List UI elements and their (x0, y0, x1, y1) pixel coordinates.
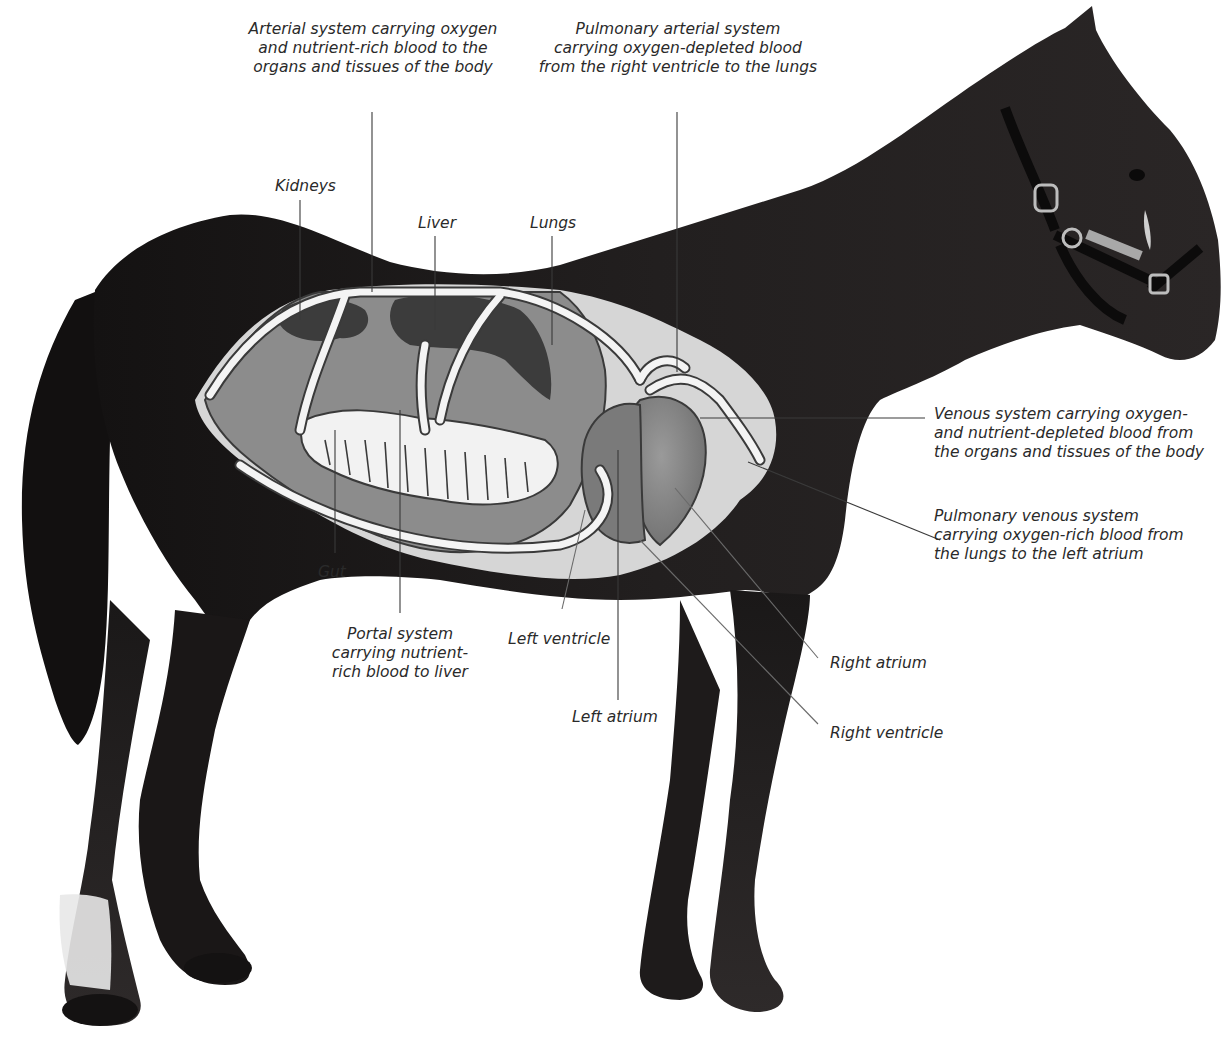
hoof (184, 953, 252, 983)
front-leg-near (710, 590, 810, 1012)
white-sock (59, 894, 111, 990)
hind-leg-far (139, 610, 250, 985)
label-left-ventricle: Left ventricle (508, 630, 610, 649)
label-right-atrium: Right atrium (830, 654, 927, 673)
label-gut: Gut (318, 563, 346, 582)
label-portal-system: Portal system carrying nutrient- rich bl… (330, 625, 470, 682)
label-liver: Liver (418, 214, 456, 233)
label-pulmonary-arterial-system: Pulmonary arterial system carrying oxyge… (530, 20, 826, 77)
horse-circulatory-diagram: Arterial system carrying oxygen and nutr… (0, 0, 1222, 1043)
front-leg-far (640, 600, 720, 1000)
hoof (62, 994, 138, 1026)
label-right-ventricle: Right ventricle (830, 724, 943, 743)
label-left-atrium: Left atrium (572, 708, 658, 727)
label-arterial-system: Arterial system carrying oxygen and nutr… (248, 20, 498, 77)
label-kidneys: Kidneys (275, 177, 336, 196)
label-venous-system: Venous system carrying oxygen- and nutri… (934, 405, 1204, 462)
label-pulmonary-venous-system: Pulmonary venous system carrying oxygen-… (934, 507, 1184, 564)
label-lungs: Lungs (530, 214, 576, 233)
eye (1129, 169, 1145, 181)
